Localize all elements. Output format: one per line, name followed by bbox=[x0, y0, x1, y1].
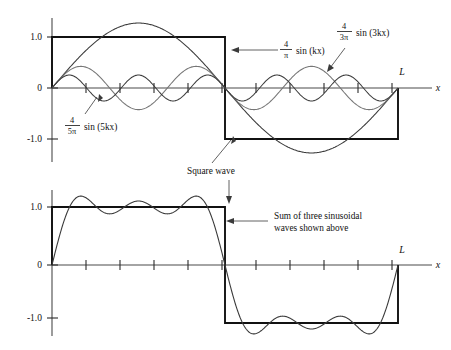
panel-connector-arrowhead bbox=[226, 196, 232, 204]
bottom-panel: 1.0 0 -1.0 L x bbox=[27, 190, 441, 336]
top-end-label-L: L bbox=[398, 66, 405, 77]
sum-of-waves-line1: Sum of three sinusoidal bbox=[274, 211, 362, 221]
annotation-sum-of-waves: Sum of three sinusoidal waves shown abov… bbox=[226, 211, 362, 233]
annotation-fifth-harmonic: 4 5π sin (5kx) bbox=[65, 94, 117, 136]
square-wave-label: Square wave bbox=[187, 166, 235, 176]
third-harmonic-fraction-numerator: 4 bbox=[342, 22, 347, 31]
first-harmonic-fraction-numerator: 4 bbox=[284, 40, 289, 49]
annotation-third-harmonic: 4 3π sin (3kx) bbox=[327, 22, 389, 72]
bottom-ytick-label-1: 1.0 bbox=[30, 202, 42, 212]
top-x-axis-label: x bbox=[435, 82, 441, 93]
third-harmonic-fraction-denominator: 3π bbox=[340, 33, 349, 42]
square-wave-arrowhead bbox=[231, 136, 236, 144]
bottom-x-axis-label: x bbox=[435, 259, 441, 270]
top-panel: 1.0 0 -1.0 L bbox=[27, 18, 441, 176]
third-harmonic-expression: sin (3kx) bbox=[356, 28, 389, 39]
fifth-harmonic-fraction-denominator: 5π bbox=[68, 127, 77, 136]
fifth-harmonic-expression: sin (5kx) bbox=[84, 122, 117, 133]
sum-of-waves-line2: waves shown above bbox=[274, 223, 348, 233]
top-ytick-label-0: 0 bbox=[37, 83, 42, 93]
annotation-square-wave: Square wave bbox=[187, 136, 236, 176]
first-harmonic-arrowhead bbox=[231, 47, 239, 53]
bottom-end-label-L: L bbox=[398, 244, 405, 255]
third-harmonic-arrowhead bbox=[327, 64, 334, 72]
first-harmonic-expression: sin (kx) bbox=[296, 46, 325, 57]
top-ytick-label-neg1: -1.0 bbox=[27, 134, 42, 144]
third-harmonic-leader bbox=[330, 48, 345, 68]
figure-canvas: 1.0 0 -1.0 L bbox=[0, 0, 451, 350]
annotation-first-harmonic: 4 π sin (kx) bbox=[231, 40, 325, 60]
fifth-harmonic-fraction-numerator: 4 bbox=[70, 116, 75, 125]
top-ytick-label-1: 1.0 bbox=[30, 32, 42, 42]
bottom-ytick-label-neg1: -1.0 bbox=[27, 313, 42, 323]
square-wave-leader bbox=[212, 140, 231, 163]
fifth-harmonic-leader bbox=[85, 97, 97, 114]
bottom-ytick-label-0: 0 bbox=[37, 260, 42, 270]
sum-of-waves-arrowhead bbox=[226, 218, 234, 224]
first-harmonic-fraction-denominator: π bbox=[284, 51, 289, 60]
fourier-square-wave-figure: 1.0 0 -1.0 L bbox=[0, 0, 451, 350]
